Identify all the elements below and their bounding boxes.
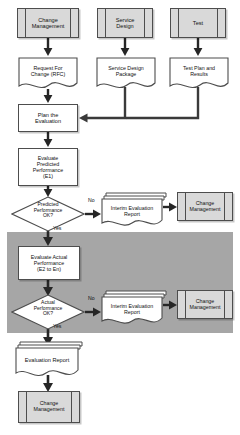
- branch-label-no-2: No: [88, 296, 95, 301]
- decision-label: Predicted Performance OK?: [11, 202, 85, 219]
- node-label: Change Management: [31, 17, 66, 30]
- node-change-management-final[interactable]: Change Management: [18, 391, 80, 423]
- node-label: Service Design: [115, 17, 136, 30]
- branch-label-yes-2: Yes: [53, 324, 61, 329]
- node-evaluate-actual-performance[interactable]: Evaluate Actual Performance (E2 to En): [18, 246, 80, 280]
- node-label-wrap: Plan the Evaluation: [18, 104, 78, 132]
- node-evaluate-predicted-performance[interactable]: Evaluate Predicted Performance (E1): [18, 148, 78, 186]
- node-service-design[interactable]: Service Design: [97, 8, 153, 38]
- doc-service-design-package[interactable]: Service Design Package: [96, 57, 156, 89]
- node-label: Plan the Evaluation: [35, 112, 61, 125]
- branch-label-no-1: No: [88, 198, 95, 203]
- node-label: Evaluate Actual Performance (E2 to En): [31, 254, 68, 272]
- doc-interim-evaluation-report-2[interactable]: Interim Evaluation Report: [101, 290, 167, 324]
- node-change-management-interim-1[interactable]: Change Management: [177, 192, 233, 221]
- node-label: Change Management: [189, 299, 222, 311]
- doc-interim-evaluation-report-1[interactable]: Interim Evaluation Report: [101, 192, 167, 226]
- decision-actual-performance-ok[interactable]: Actual Performance OK?: [11, 294, 85, 330]
- doc-test-plan-and-results[interactable]: Test Plan and Results: [169, 57, 229, 89]
- node-label-wrap: Evaluate Predicted Performance (E1): [18, 148, 78, 186]
- node-label: Change Management: [33, 401, 66, 413]
- node-label-wrap: Evaluate Actual Performance (E2 to En): [18, 246, 80, 280]
- node-change-management-interim-2[interactable]: Change Management: [177, 290, 233, 319]
- doc-evaluation-report[interactable]: Evaluation Report: [15, 341, 83, 377]
- decision-predicted-performance-ok[interactable]: Predicted Performance OK?: [11, 196, 85, 232]
- node-plan-the-evaluation[interactable]: Plan the Evaluation: [18, 104, 78, 132]
- branch-label-yes-1: Yes: [53, 226, 61, 231]
- node-test[interactable]: Test: [170, 8, 226, 38]
- node-label: Test: [192, 20, 204, 26]
- node-label: Evaluate Predicted Performance (E1): [33, 155, 63, 179]
- node-change-management-top[interactable]: Change Management: [17, 8, 79, 38]
- flowchart-canvas: Change Management Service Design Test: [0, 0, 240, 435]
- node-label: Change Management: [189, 201, 222, 213]
- doc-request-for-change[interactable]: Request For Change (RFC): [18, 57, 78, 89]
- decision-label: Actual Performance OK?: [11, 300, 85, 317]
